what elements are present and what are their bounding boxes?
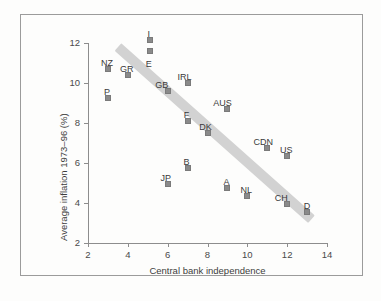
x-tick-label: 14 [307, 249, 347, 260]
x-tick [327, 243, 328, 247]
y-tick [84, 83, 88, 84]
data-point-label: DK [186, 122, 226, 132]
x-tick [168, 243, 169, 247]
x-tick-label: 8 [188, 249, 228, 260]
data-point-label: E [129, 59, 169, 69]
x-axis-label: Central bank independence [28, 265, 381, 276]
scatter-plot: 246810121424681012Central bank independe… [0, 0, 381, 301]
data-point-label: AUS [202, 98, 242, 108]
y-tick [84, 123, 88, 124]
y-tick [84, 163, 88, 164]
y-tick-label: 10 [48, 77, 80, 88]
data-point-label: P [87, 87, 127, 97]
data-point-label: B [167, 157, 207, 167]
y-axis-line [88, 43, 89, 243]
y-axis-label: Average inflation 1973–96 (%) [58, 113, 69, 241]
x-tick-label: 6 [148, 249, 188, 260]
x-tick [208, 243, 209, 247]
y-tick-label: 12 [48, 37, 80, 48]
y-tick [84, 203, 88, 204]
data-point-label: I [129, 29, 169, 39]
y-tick [84, 243, 88, 244]
x-tick [247, 243, 248, 247]
x-tick-label: 4 [108, 249, 148, 260]
x-tick [88, 243, 89, 247]
figure-container: 246810121424681012Central bank independe… [0, 0, 381, 301]
x-tick-label: 10 [227, 249, 267, 260]
x-tick-label: 12 [267, 249, 307, 260]
data-point[interactable] [147, 48, 153, 54]
data-point-label: JP [146, 173, 186, 183]
y-tick [84, 43, 88, 44]
x-tick-label: 2 [68, 249, 108, 260]
data-point-label: F [167, 110, 207, 120]
x-tick [128, 243, 129, 247]
data-point-label: D [287, 201, 327, 211]
data-point-label: US [266, 145, 306, 155]
data-point-label: IRL [165, 72, 205, 82]
x-tick [287, 243, 288, 247]
